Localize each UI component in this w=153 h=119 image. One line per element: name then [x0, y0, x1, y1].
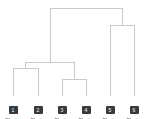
leaf-label-6[interactable]: 6 Cluster	[114, 98, 153, 119]
leaf-name-6: Cluster	[114, 117, 153, 119]
dendrogram-figure: 1 Cluster 2 Cluster 3 Cluster 4 Cluster …	[0, 0, 153, 119]
leaf-number-badge-1: 1	[9, 106, 18, 114]
leaf-number-badge-6: 6	[130, 106, 139, 114]
